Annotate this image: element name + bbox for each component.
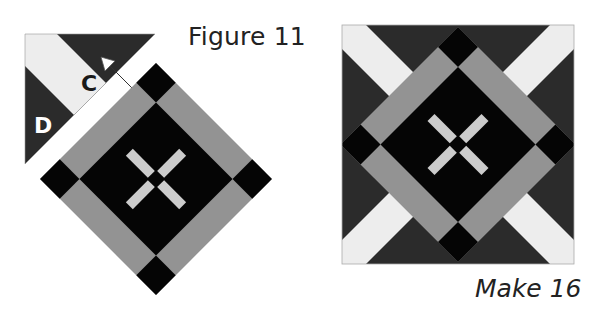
label-c: C [81, 71, 97, 96]
finished-block [341, 25, 576, 264]
figure-title: Figure 11 [188, 22, 306, 51]
figure-caption: Make 16 [475, 274, 582, 303]
label-d: D [34, 113, 52, 138]
